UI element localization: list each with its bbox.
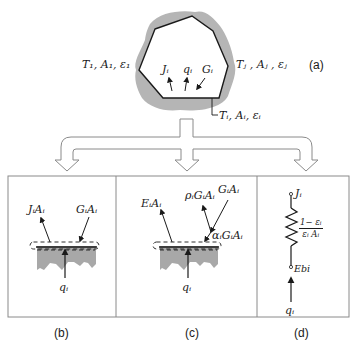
irradiation-rate-label: GᵢAᵢ <box>76 204 97 215</box>
irradiation-label: Gᵢ <box>202 64 213 75</box>
net-flux-label-b: qᵢ <box>59 282 68 293</box>
splitting-arrow <box>55 119 318 171</box>
surface-i-label: Tᵢ, Aᵢ, εᵢ <box>219 110 261 121</box>
blackbody-node-label: Ebi <box>294 264 310 274</box>
radiosity-rate-label: JᵢAᵢ <box>28 204 45 215</box>
reflected-rate-label: ρᵢGᵢAᵢ <box>185 190 215 201</box>
surface-j-label: Tⱼ , Aⱼ , εⱼ <box>236 59 287 70</box>
blackbody-node <box>289 265 292 268</box>
panel-d-caption: (d) <box>294 327 309 339</box>
absorbed-arrow-c <box>205 232 211 241</box>
panel-b-caption: (b) <box>54 327 69 339</box>
incident-rate-label: GᵢAᵢ <box>218 184 239 195</box>
incident-arrow-c <box>211 200 228 232</box>
panel-a-caption: (a) <box>309 59 324 71</box>
panel-c-caption: (c) <box>185 327 199 339</box>
surface-resistance-label: 1− εᵢ εᵢ Aᵢ <box>299 218 323 238</box>
resistance-denominator: εᵢ Aᵢ <box>299 229 323 239</box>
surface-1-label: T₁, A₁, ε₁ <box>82 59 130 70</box>
emission-arrow-c <box>161 210 172 242</box>
radiosity-arrow-b <box>41 218 50 242</box>
radiation-diagram <box>0 0 359 345</box>
resistance-numerator: 1− εᵢ <box>299 218 323 229</box>
radiosity-node <box>289 192 292 195</box>
radiosity-label: Jᵢ <box>162 64 169 75</box>
resistor-icon <box>286 208 297 246</box>
emission-rate-label: EᵢAᵢ <box>141 198 161 209</box>
radiosity-node-label: Jᵢ <box>295 188 302 199</box>
reflected-arrow-c <box>203 206 211 232</box>
net-flux-label-c: qᵢ <box>182 282 191 293</box>
absorbed-rate-label: αᵢGᵢAᵢ <box>212 230 243 241</box>
net-flux-label-d: qᵢ <box>285 305 294 316</box>
net-flux-label: qᵢ <box>183 64 192 75</box>
surface-element-c <box>153 242 221 270</box>
irradiation-arrow-b <box>80 217 89 241</box>
